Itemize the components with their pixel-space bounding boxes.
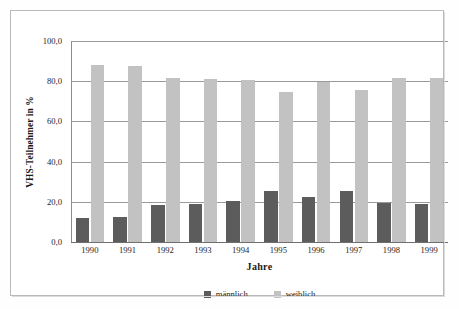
bar-1993-weiblich: [204, 79, 218, 242]
bar-1999-maennlich: [415, 204, 429, 242]
y-tick-label: 0,0: [51, 237, 62, 247]
x-tick-label-1992: 1992: [157, 245, 174, 255]
legend-item-maennlich: männlich: [204, 289, 248, 299]
bar-1994-weiblich: [241, 80, 255, 242]
bar-1990-maennlich: [76, 218, 90, 242]
bar-1994-maennlich: [226, 201, 240, 242]
bar-series-container: [71, 41, 448, 243]
y-tick-label: 100,0: [43, 36, 62, 46]
bar-1998-weiblich: [392, 78, 406, 242]
legend-swatch-icon-maennlich: [204, 291, 211, 298]
bar-1998-maennlich: [377, 203, 391, 242]
legend-item-weiblich: weiblich: [274, 289, 316, 299]
y-tick-label: 80,0: [47, 76, 62, 86]
legend-label-maennlich: männlich: [216, 289, 248, 299]
bar-group: [189, 41, 218, 242]
y-axis-tick-labels: 0,020,040,060,080,0100,0: [11, 41, 67, 243]
bar-1996-maennlich: [302, 197, 316, 242]
x-tick-label-1995: 1995: [270, 245, 287, 255]
chart-frame: VHS-Teilnehmer in % 0,020,040,060,080,01…: [10, 10, 444, 296]
bar-1990-weiblich: [91, 65, 105, 242]
bar-1991-weiblich: [128, 66, 142, 242]
chart-legend: männlich weiblich: [71, 287, 448, 301]
x-tick-label-1991: 1991: [119, 245, 136, 255]
y-tick-label: 60,0: [47, 116, 62, 126]
bar-1996-weiblich: [317, 82, 331, 242]
legend-swatch-icon-weiblich: [274, 291, 281, 298]
x-tick-label-1993: 1993: [194, 245, 211, 255]
bar-1992-weiblich: [166, 78, 180, 242]
x-tick-label-1997: 1997: [345, 245, 362, 255]
plot-area: [71, 41, 448, 243]
x-tick-label-1999: 1999: [421, 245, 438, 255]
bar-1995-maennlich: [264, 191, 278, 242]
bar-1992-maennlich: [151, 205, 165, 242]
bar-1997-maennlich: [340, 191, 354, 242]
y-tick-label: 40,0: [47, 157, 62, 167]
chart-figure: VHS-Teilnehmer in % 0,020,040,060,080,01…: [0, 0, 459, 309]
bar-group: [76, 41, 105, 242]
bar-1993-maennlich: [189, 204, 203, 242]
x-tick-label-1994: 1994: [232, 245, 249, 255]
bar-group: [113, 41, 142, 242]
bar-1997-weiblich: [355, 90, 369, 242]
bar-group: [302, 41, 331, 242]
y-tick-label: 20,0: [47, 197, 62, 207]
bar-1999-weiblich: [430, 78, 444, 242]
bar-group: [151, 41, 180, 242]
bar-group: [340, 41, 369, 242]
bar-group: [226, 41, 255, 242]
x-tick-label-1990: 1990: [81, 245, 98, 255]
bar-group: [415, 41, 444, 242]
bar-group: [377, 41, 406, 242]
bar-1995-weiblich: [279, 92, 293, 242]
x-tick-label-1998: 1998: [383, 245, 400, 255]
bar-group: [264, 41, 293, 242]
bar-1991-maennlich: [113, 217, 127, 242]
x-axis-tick-labels: 1990199119921993199419951996199719981999: [71, 245, 448, 259]
x-axis-title: Jahre: [71, 261, 448, 272]
legend-label-weiblich: weiblich: [286, 289, 316, 299]
x-tick-label-1996: 1996: [307, 245, 324, 255]
